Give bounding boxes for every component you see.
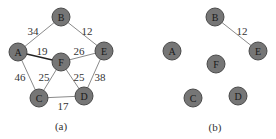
node-d: D — [229, 87, 247, 105]
edge-weight-label: 38 — [95, 71, 107, 83]
edge-weight-label: 19 — [37, 45, 49, 57]
graph-figure: 341219264625253817ABEFCD(a) 12ABEFCD(b) — [0, 0, 276, 139]
edge-weight-label: 25 — [74, 71, 86, 83]
node-b: B — [206, 8, 224, 26]
node-label: C — [190, 93, 197, 104]
node-b: B — [52, 8, 70, 26]
node-label: E — [101, 46, 107, 57]
edge-weight-label: 12 — [237, 25, 248, 37]
node-label: B — [58, 12, 65, 23]
node-label: A — [14, 47, 22, 58]
node-label: D — [80, 91, 87, 102]
node-label: A — [168, 46, 176, 57]
node-label: C — [36, 93, 43, 104]
edge-weight-label: 26 — [74, 45, 86, 57]
panel-caption: (a) — [55, 120, 68, 133]
panel-caption: (b) — [209, 121, 222, 134]
edge-weight-label: 12 — [82, 25, 93, 37]
node-a: A — [9, 43, 27, 61]
node-e: E — [95, 42, 113, 60]
node-label: D — [234, 91, 241, 102]
node-e: E — [249, 42, 267, 60]
node-label: B — [212, 12, 219, 23]
node-f: F — [207, 55, 225, 73]
edge-weight-label: 34 — [28, 25, 40, 37]
node-label: E — [255, 46, 261, 57]
node-f: F — [52, 53, 70, 71]
node-d: D — [75, 87, 93, 105]
node-label: F — [58, 57, 64, 68]
node-a: A — [163, 42, 181, 60]
node-c: C — [184, 89, 202, 107]
panel-b-partial-graph: 12ABEFCD(b) — [163, 8, 267, 134]
node-label: F — [213, 59, 219, 70]
edge-weight-label: 17 — [58, 100, 70, 112]
edge-weight-label: 46 — [15, 71, 27, 83]
panel-a-full-graph: 341219264625253817ABEFCD(a) — [9, 8, 113, 133]
edge-weight-label: 25 — [39, 71, 51, 83]
node-c: C — [30, 89, 48, 107]
